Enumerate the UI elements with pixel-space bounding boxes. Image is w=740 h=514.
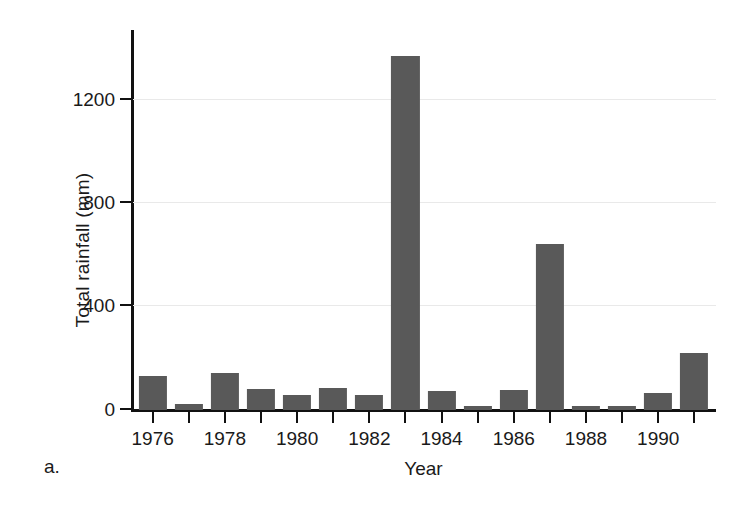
bar: [680, 353, 708, 410]
x-tick-label: 1990: [637, 428, 679, 450]
x-tick-mark: [224, 412, 226, 423]
y-tick-label: 0: [104, 399, 115, 421]
x-tick-mark: [657, 412, 659, 423]
x-tick-mark: [404, 412, 406, 423]
y-tick-mark: [120, 304, 132, 306]
bar: [572, 406, 600, 410]
y-tick-mark: [120, 408, 132, 410]
x-axis-title: Year: [131, 458, 716, 480]
bar: [175, 404, 203, 410]
x-tick-label: 1984: [420, 428, 462, 450]
x-tick-label: 1988: [565, 428, 607, 450]
x-tick-mark: [296, 412, 298, 423]
y-tick-label: 400: [83, 295, 115, 317]
bar: [283, 395, 311, 410]
x-tick-mark: [188, 412, 190, 423]
bar: [391, 56, 419, 410]
x-tick-label: 1976: [132, 428, 174, 450]
bar: [644, 393, 672, 410]
x-tick-label: 1986: [493, 428, 535, 450]
x-tick-mark: [368, 412, 370, 423]
x-tick-mark: [260, 412, 262, 423]
x-tick-mark: [621, 412, 623, 423]
bar: [464, 406, 492, 410]
y-axis-line: [131, 30, 134, 412]
gridline: [133, 99, 716, 100]
bar: [608, 406, 636, 410]
x-tick-mark: [332, 412, 334, 423]
x-tick-label: 1980: [276, 428, 318, 450]
bar: [427, 391, 455, 410]
panel-label: a.: [44, 456, 60, 478]
x-tick-mark: [513, 412, 515, 423]
bar: [247, 389, 275, 410]
x-tick-mark: [549, 412, 551, 423]
y-tick-mark: [120, 201, 132, 203]
y-axis-title-container: Total rainfall (mm): [14, 40, 60, 460]
y-tick-label: 1200: [73, 89, 115, 111]
figure: Total rainfall (mm) 04008001200 19761978…: [0, 0, 740, 514]
gridline: [133, 305, 716, 306]
bar: [536, 244, 564, 410]
gridline: [133, 202, 716, 203]
x-tick-mark: [693, 412, 695, 423]
x-tick-label: 1982: [348, 428, 390, 450]
bar: [139, 376, 167, 410]
bar: [500, 390, 528, 410]
x-tick-mark: [152, 412, 154, 423]
bar: [319, 388, 347, 410]
x-tick-label: 1978: [204, 428, 246, 450]
x-tick-mark: [477, 412, 479, 423]
y-tick-mark: [120, 98, 132, 100]
x-tick-mark: [441, 412, 443, 423]
x-tick-mark: [585, 412, 587, 423]
plot-area: 04008001200 1976197819801982198419861988…: [131, 30, 716, 412]
y-tick-label: 800: [83, 192, 115, 214]
bar: [355, 395, 383, 410]
bar: [211, 373, 239, 410]
